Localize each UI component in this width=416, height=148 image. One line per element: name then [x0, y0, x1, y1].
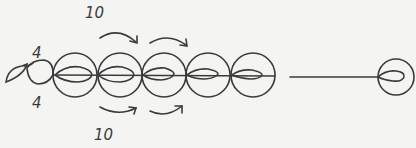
petal-loop-3 [143, 68, 174, 80]
arrow-bottom-2 [150, 106, 182, 114]
label-left-bottom: 4 [32, 94, 42, 112]
arrow-top-2 [150, 38, 186, 45]
bead-circle-5 [231, 53, 275, 97]
label-bottom-count: 10 [94, 126, 113, 144]
label-left-top: 4 [32, 44, 42, 62]
label-top-count: 10 [85, 4, 104, 22]
beading-diagram [0, 0, 416, 148]
thread-line [53, 75, 275, 76]
end-petal-loop [378, 71, 404, 81]
end-bead-circle [378, 59, 414, 95]
petal-loop-5 [232, 70, 262, 79]
small-loop [27, 60, 53, 84]
petal-loop-4 [187, 69, 218, 79]
petal-loop-2 [98, 67, 134, 82]
